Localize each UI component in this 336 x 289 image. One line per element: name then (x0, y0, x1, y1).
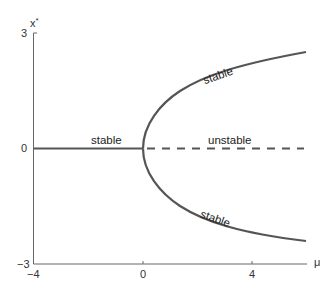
bifurcation-chart: 3 x* 0 −3 −4 0 4 μ stable unstable stabl… (0, 0, 336, 289)
label-upper-stable: stable (201, 65, 234, 86)
label-unstable: unstable (208, 134, 251, 146)
label-lower-stable: stable (199, 208, 232, 229)
y-axis-label: x* (30, 16, 39, 29)
x-axis-label: μ (314, 256, 320, 268)
y-tick-label-3: 3 (21, 27, 27, 39)
label-left-stable: stable (91, 134, 122, 146)
y-tick-label-0: 0 (21, 142, 27, 154)
x-tick-label-0: 0 (140, 268, 146, 280)
x-tick-label-4: 4 (249, 268, 255, 280)
x-tick-label-neg4: −4 (27, 268, 40, 280)
